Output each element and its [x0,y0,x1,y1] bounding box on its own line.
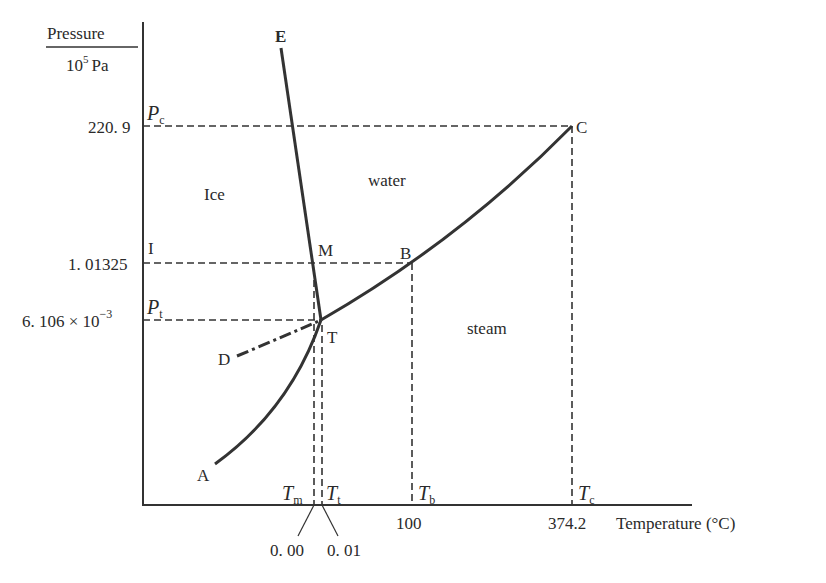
phase-diagram: Pressure 105Pa 220. 9 1. 01325 6. 106 × … [0,0,826,583]
ytick-pc: 220. 9 [88,118,131,137]
svg-text:Tc: Tc [578,482,594,507]
xtick-tm: 0. 00 [270,541,304,560]
svg-text:6. 106 × 10−3: 6. 106 × 10−3 [22,307,112,331]
point-D: D [218,350,230,369]
point-E: E [275,27,286,46]
svg-text:Pt: Pt [146,296,163,321]
guide-lines [143,126,572,505]
xtick-tc: 374.2 [548,514,586,533]
xtick-tb: 100 [396,514,422,533]
region-steam: steam [467,319,507,338]
svg-text:105Pa: 105Pa [66,53,109,75]
ytick-atm: 1. 01325 [68,255,128,274]
diagram-canvas: Pressure 105Pa 220. 9 1. 01325 6. 106 × … [0,0,826,583]
point-M: M [318,241,333,260]
xlabel: Temperature (°C) [616,514,735,533]
region-water: water [368,171,406,190]
melting-curve [281,48,321,320]
point-T: T [327,328,338,347]
point-A: A [197,466,210,485]
svg-text:I: I [148,239,154,258]
ylabel-top: Pressure [47,24,105,43]
point-B: B [400,244,411,263]
xtick-tt: 0. 01 [327,541,361,560]
svg-text:Tb: Tb [418,482,435,507]
svg-text:Tm: Tm [282,482,303,507]
svg-text:Pc: Pc [146,102,165,127]
vaporization-curve [321,126,572,320]
svg-text:Tt: Tt [326,482,341,507]
region-ice: Ice [204,185,225,204]
point-C: C [576,118,587,137]
